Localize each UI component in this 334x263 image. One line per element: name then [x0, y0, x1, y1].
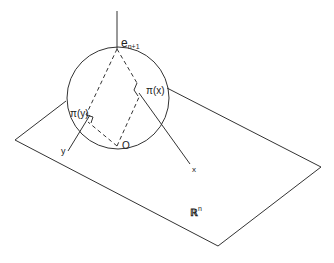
plane-Rn [15, 88, 321, 246]
label-pi-x: π(x) [146, 85, 165, 96]
unit-sphere [67, 47, 169, 149]
label-space-Rn: ℝn [190, 205, 202, 218]
label-pi-y: π(y) [70, 108, 89, 119]
line-to-y [68, 115, 90, 151]
label-origin: O [122, 140, 130, 151]
label-x: x [192, 165, 196, 174]
label-y: y [61, 146, 66, 156]
dashed-projection-lines [86, 49, 140, 146]
line-to-x [139, 93, 190, 164]
stereographic-projection-diagram: en+1 π(x) π(y) O x y ℝn [0, 0, 334, 263]
label-north-pole: en+1 [121, 36, 140, 50]
